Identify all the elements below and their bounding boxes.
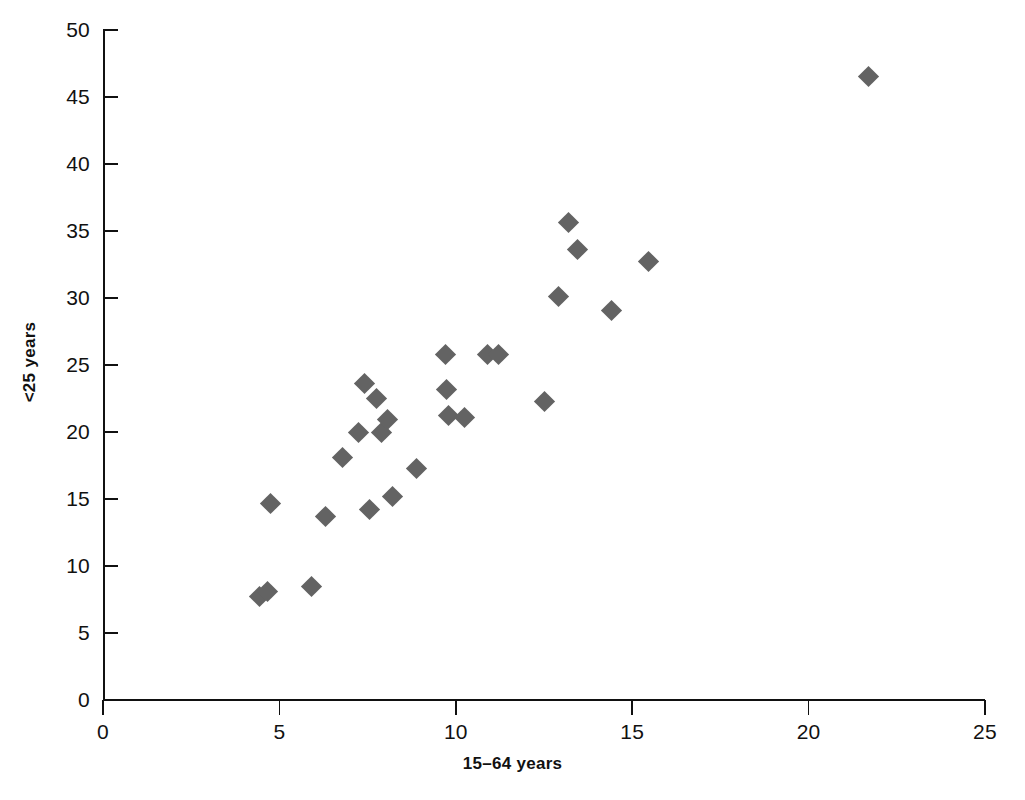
data-point-marker	[260, 492, 281, 513]
data-point-marker	[858, 66, 879, 87]
x-axis-tick	[279, 700, 281, 715]
data-point-marker	[533, 391, 554, 412]
y-axis-tick-label: 45	[28, 86, 90, 107]
data-point-marker	[359, 499, 380, 520]
scatter-plot-figure: 05101520253035404550 0510152025 15–64 ye…	[0, 0, 1025, 800]
x-axis-tick	[808, 700, 810, 715]
data-point-marker	[332, 447, 353, 468]
x-axis-tick-label: 25	[950, 721, 1020, 742]
y-axis-title: <25 years	[20, 272, 40, 452]
y-axis-tick-label: 50	[28, 19, 90, 40]
y-axis-tick-label: 35	[28, 220, 90, 241]
x-axis-tick-label: 0	[68, 721, 138, 742]
data-point-marker	[315, 506, 336, 527]
data-point-marker	[637, 251, 658, 272]
data-point-marker	[600, 299, 621, 320]
data-point-marker	[382, 486, 403, 507]
data-point-marker	[548, 286, 569, 307]
data-point-marker	[406, 458, 427, 479]
y-axis-tick-label: 10	[28, 555, 90, 576]
x-axis-tick	[631, 700, 633, 715]
y-axis-tick-label: 15	[28, 488, 90, 509]
y-axis-tick-label: 5	[28, 622, 90, 643]
data-point-marker	[558, 212, 579, 233]
data-point-marker	[348, 421, 369, 442]
x-axis-tick-label: 5	[244, 721, 314, 742]
x-axis-tick	[984, 700, 986, 715]
data-point-marker	[366, 388, 387, 409]
x-axis-tick	[455, 700, 457, 715]
data-point-marker	[454, 407, 475, 428]
y-axis-tick-label: 40	[28, 153, 90, 174]
data-point-marker	[567, 239, 588, 260]
x-axis-tick-label: 20	[774, 721, 844, 742]
x-axis-tick-label: 15	[597, 721, 667, 742]
data-point-marker	[301, 575, 322, 596]
x-axis-title: 15–64 years	[0, 754, 1025, 774]
x-axis-tick-label: 10	[421, 721, 491, 742]
data-point-marker	[435, 344, 456, 365]
y-axis-tick-label: 0	[28, 689, 90, 710]
data-point-marker	[436, 379, 457, 400]
x-axis-tick	[102, 700, 104, 715]
plot-data-area	[103, 30, 985, 700]
